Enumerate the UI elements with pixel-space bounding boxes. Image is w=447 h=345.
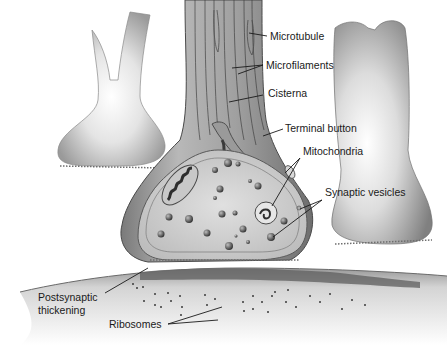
label-microtubule: Microtubule (270, 30, 324, 42)
mitochondrion-right (255, 202, 277, 224)
label-postsynaptic-thickening-2: thickening (38, 304, 85, 316)
label-synaptic-vesicles: Synaptic vesicles (325, 186, 406, 198)
label-ribosomes: Ribosomes (109, 318, 162, 330)
label-microfilaments: Microfilaments (266, 59, 334, 71)
label-terminal-button: Terminal button (285, 122, 357, 134)
left-neighbor-terminal (58, 12, 165, 166)
label-postsynaptic-thickening-1: Postsynaptic (38, 291, 98, 303)
label-cisterna: Cisterna (268, 87, 307, 99)
label-mitochondria: Mitochondria (303, 145, 363, 157)
